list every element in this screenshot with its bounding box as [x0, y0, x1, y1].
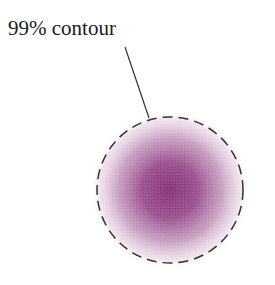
leader-line: [125, 47, 149, 118]
density-figure: [0, 0, 275, 285]
density-grain: [94, 114, 246, 266]
